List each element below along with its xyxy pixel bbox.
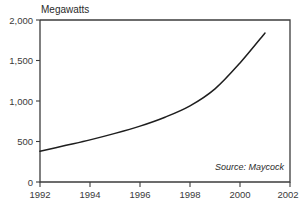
- y-axis-label-1500: 1,500: [9, 55, 33, 66]
- plot-frame: [40, 20, 290, 182]
- y-axis-label-1000: 1,000: [9, 96, 33, 107]
- chart-container: Megawatts 2,000 1,500 1,000 500 0 1992 1…: [0, 0, 307, 207]
- x-axis-label-2002: 2002: [277, 189, 298, 200]
- y-axis-label-2000: 2,000: [9, 15, 33, 26]
- x-axis-label-1996: 1996: [129, 189, 150, 200]
- x-axis-label-2000: 2000: [229, 189, 250, 200]
- x-axis-label-1994: 1994: [79, 189, 100, 200]
- x-axis-label-1998: 1998: [179, 189, 200, 200]
- y-axis-title: Megawatts: [41, 4, 89, 15]
- source-annotation: Source: Maycock: [215, 162, 285, 172]
- y-axis-label-0: 0: [28, 177, 33, 188]
- series-line-megawatts: [40, 33, 265, 151]
- x-axis-label-1992: 1992: [29, 189, 50, 200]
- line-chart: Megawatts 2,000 1,500 1,000 500 0 1992 1…: [0, 0, 307, 207]
- y-axis-label-500: 500: [17, 136, 33, 147]
